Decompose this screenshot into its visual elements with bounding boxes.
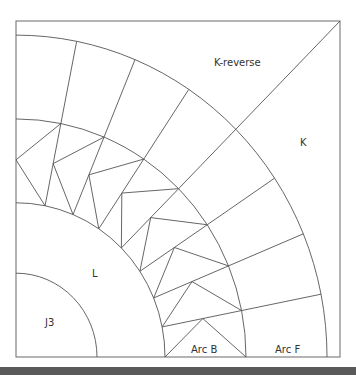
bottom-bar: [0, 367, 356, 375]
quilt-pattern-diagram: K-reverse K L J3 Arc B Arc F: [0, 0, 356, 375]
spoke-f: [228, 234, 303, 266]
spoke-f: [61, 41, 77, 123]
triangle-edge: [192, 282, 242, 311]
spoke-b: [121, 189, 178, 248]
triangle-edge: [16, 124, 61, 160]
triangle-edge: [174, 247, 228, 265]
diagonal-line: [179, 21, 340, 189]
triangle-edge: [122, 189, 179, 193]
triangle-edge: [89, 175, 99, 229]
arc-j3: [16, 273, 97, 357]
label-arc-f: Arc F: [275, 344, 300, 355]
spoke-f: [104, 60, 135, 137]
spoke-b: [140, 225, 207, 272]
triangle-edge: [16, 160, 45, 206]
spoke-f: [207, 178, 274, 225]
triangle-edge: [53, 164, 73, 215]
label-k-reverse: K-reverse: [214, 57, 261, 68]
label-k: K: [300, 137, 307, 148]
triangle-edge: [140, 218, 151, 272]
label-arc-b: Arc B: [191, 344, 217, 355]
label-l: L: [92, 268, 98, 279]
spoke-f: [144, 89, 189, 159]
spoke-f: [242, 294, 321, 310]
triangle-edge: [151, 218, 208, 225]
label-j3: J3: [44, 317, 54, 328]
triangle-edge: [53, 137, 104, 164]
spoke-b: [45, 124, 61, 206]
pattern-lines: [16, 21, 340, 357]
spoke-b: [162, 311, 241, 327]
spoke-b: [73, 137, 104, 214]
